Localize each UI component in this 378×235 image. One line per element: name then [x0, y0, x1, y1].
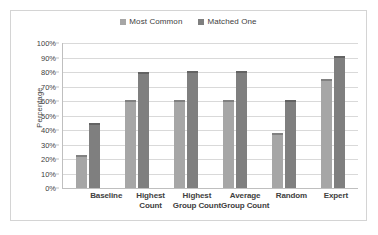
- y-axis-tick-label: 80%: [41, 68, 56, 77]
- y-axis-tick-label: 60%: [41, 97, 56, 106]
- y-axis-tick-mark: [56, 173, 59, 174]
- bar-matched-one[interactable]: [236, 71, 247, 188]
- bar-group: [309, 43, 358, 188]
- y-axis-tick-label: 100%: [37, 39, 56, 48]
- error-bar: [89, 123, 100, 125]
- chart-container: Most Common Matched One Percentage 100%9…: [10, 10, 367, 221]
- y-axis-tick-mark: [56, 159, 59, 160]
- bar-most-common[interactable]: [174, 100, 185, 188]
- y-axis-tick-label: 30%: [41, 140, 56, 149]
- y-axis-tick-mark: [56, 86, 59, 87]
- y-axis-tick-label: 90%: [41, 53, 56, 62]
- bar-matched-one[interactable]: [285, 100, 296, 188]
- error-bar: [174, 100, 185, 102]
- y-axis-tick-mark: [56, 115, 59, 116]
- bar-most-common[interactable]: [321, 79, 332, 188]
- bar-group: [161, 43, 210, 188]
- bar-most-common[interactable]: [125, 100, 136, 188]
- y-axis-tick-label: 50%: [41, 111, 56, 120]
- x-axis-tick-label: HighestGroup Count: [173, 191, 221, 211]
- error-bar: [138, 72, 149, 74]
- error-bar: [187, 71, 198, 73]
- error-bar: [285, 100, 296, 102]
- y-axis-tick-labels: 100%90%80%70%60%50%40%30%20%10%0%: [33, 43, 59, 188]
- y-axis-tick-label: 20%: [41, 155, 56, 164]
- error-bar: [321, 79, 332, 81]
- y-axis-tick-label: 40%: [41, 126, 56, 135]
- x-axis-tick-label: Expert: [314, 191, 358, 211]
- x-axis-tick-label: HighestCount: [128, 191, 172, 211]
- legend-entry-most-common[interactable]: Most Common: [120, 17, 182, 26]
- y-axis-tick-mark: [56, 101, 59, 102]
- error-bar: [236, 71, 247, 73]
- y-axis-tick-mark: [56, 57, 59, 58]
- y-axis-tick-mark: [56, 43, 59, 44]
- x-axis-tick-label: Random: [269, 191, 313, 211]
- error-bar: [272, 133, 283, 135]
- y-axis-tick-mark: [56, 144, 59, 145]
- bar-most-common[interactable]: [272, 133, 283, 188]
- legend-swatch-most-common: [120, 19, 126, 25]
- y-axis-tick-label: 70%: [41, 82, 56, 91]
- bar-matched-one[interactable]: [187, 71, 198, 188]
- x-axis-tick-labels: BaselineHighestCountHighestGroup CountAv…: [84, 191, 358, 211]
- legend-label-most-common: Most Common: [129, 17, 182, 26]
- plot-wrapper: 100%90%80%70%60%50%40%30%20%10%0% Baseli…: [33, 43, 358, 186]
- legend-swatch-matched-one: [198, 19, 204, 25]
- plot-area: [62, 43, 358, 189]
- y-axis-tick-mark: [56, 188, 59, 189]
- error-bar: [334, 56, 345, 58]
- bar-group: [63, 43, 112, 188]
- legend-label-matched-one: Matched One: [207, 17, 256, 26]
- error-bar: [76, 155, 87, 157]
- y-axis-tick-label: 0%: [45, 184, 56, 193]
- y-axis-tick-mark: [56, 72, 59, 73]
- bar-group: [112, 43, 161, 188]
- y-axis-tick-mark: [56, 130, 59, 131]
- bar-groups: [63, 43, 358, 188]
- y-axis-tick-label: 10%: [41, 169, 56, 178]
- bar-group: [260, 43, 309, 188]
- legend-entry-matched-one[interactable]: Matched One: [198, 17, 256, 26]
- bar-group: [211, 43, 260, 188]
- error-bar: [125, 100, 136, 102]
- bar-most-common[interactable]: [223, 100, 234, 188]
- x-axis-tick-label: Baseline: [84, 191, 128, 211]
- x-axis-tick-label: AverageGroup Count: [221, 191, 269, 211]
- bar-matched-one[interactable]: [89, 123, 100, 188]
- bar-matched-one[interactable]: [138, 72, 149, 188]
- bar-matched-one[interactable]: [334, 56, 345, 188]
- error-bar: [223, 100, 234, 102]
- chart-legend: Most Common Matched One: [11, 17, 366, 26]
- bar-most-common[interactable]: [76, 155, 87, 188]
